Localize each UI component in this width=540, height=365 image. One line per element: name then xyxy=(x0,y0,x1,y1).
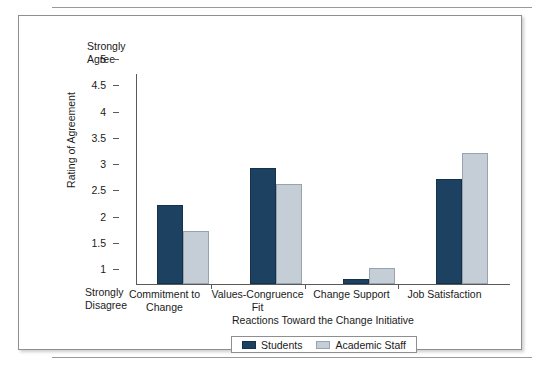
bar-academic-staff-change-support xyxy=(369,268,395,284)
y-axis-tick-label: 5 xyxy=(66,54,106,64)
y-axis-tick-label: 4.5 xyxy=(66,80,106,90)
y-axis-tick-label: 2 xyxy=(66,212,106,222)
legend-label: Academic Staff xyxy=(335,339,405,351)
x-axis-category-label-line: Job Satisfaction xyxy=(398,288,491,301)
bar-academic-staff-job-satisfaction xyxy=(462,153,488,284)
y-axis-tick xyxy=(113,190,119,191)
x-axis-title: Reactions Toward the Change Initiative xyxy=(136,314,510,326)
chart-legend: StudentsAcademic Staff xyxy=(231,336,417,353)
bar-students-values-congruence-fit xyxy=(250,168,276,284)
y-axis-high-anchor-line1: Strongly xyxy=(87,40,139,53)
x-axis-category-label-line: Change xyxy=(118,301,211,314)
legend-swatch-icon xyxy=(242,341,256,349)
y-axis-tick xyxy=(113,59,119,60)
y-axis-tick xyxy=(113,217,119,218)
x-axis-category-label-line: Values-Congruence xyxy=(211,288,304,301)
y-axis-tick-label: 3.5 xyxy=(66,133,106,143)
y-axis-tick xyxy=(113,269,119,270)
y-axis-tick-label: 4 xyxy=(66,107,106,117)
bar-students-job-satisfaction xyxy=(436,179,462,284)
x-axis-category-label-line: Fit xyxy=(211,301,304,314)
bar-academic-staff-values-congruence-fit xyxy=(276,184,302,284)
bar-academic-staff-commitment-to-change xyxy=(183,231,209,284)
x-axis-category-label: Job Satisfaction xyxy=(398,288,491,301)
x-axis-category-label: Change Support xyxy=(305,288,398,301)
page-rule-bottom xyxy=(52,357,532,358)
x-axis-category-label: Commitment toChange xyxy=(118,288,211,313)
y-axis-tick xyxy=(113,85,119,86)
x-axis-category-label-line: Change Support xyxy=(305,288,398,301)
x-axis-category-label: Values-CongruenceFit xyxy=(211,288,304,313)
x-axis-category-label-line: Commitment to xyxy=(118,288,211,301)
bar-students-commitment-to-change xyxy=(157,205,183,284)
y-axis-tick-label: 3 xyxy=(66,159,106,169)
y-axis-tick xyxy=(113,243,119,244)
y-axis-tick-label: 1.5 xyxy=(66,238,106,248)
chart-figure-frame: Strongly Agree Strongly Disagree Rating … xyxy=(18,15,522,350)
legend-label: Students xyxy=(261,339,302,351)
bar-students-change-support xyxy=(343,279,369,284)
x-axis-line xyxy=(136,284,510,285)
y-axis-tick xyxy=(113,164,119,165)
legend-entry-academic-staff: Academic Staff xyxy=(316,339,405,351)
legend-entry-students: Students xyxy=(242,339,302,351)
plot-area xyxy=(136,74,509,284)
y-axis-tick xyxy=(113,138,119,139)
page-rule-top xyxy=(52,7,532,8)
y-axis-tick xyxy=(113,112,119,113)
legend-swatch-icon xyxy=(316,341,330,349)
y-axis-tick-label: 1 xyxy=(66,264,106,274)
y-axis-tick-label: 2.5 xyxy=(66,185,106,195)
